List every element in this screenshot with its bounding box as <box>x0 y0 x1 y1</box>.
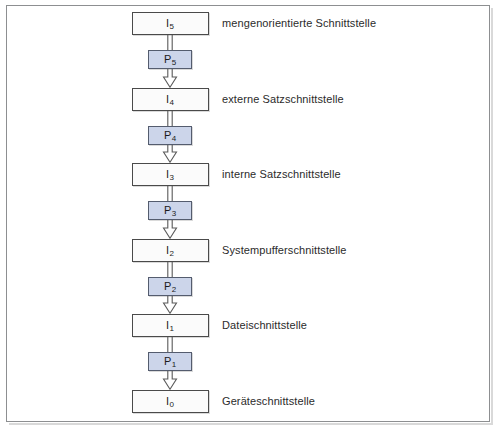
interface-caption-i2: Systempufferschnittstelle <box>222 244 347 256</box>
hollow-down-arrow-icon <box>161 220 179 239</box>
node-label-subscript: 0 <box>170 400 175 409</box>
interface-box-i3: I3 <box>132 163 209 186</box>
connector-p5-to-i4 <box>161 69 179 88</box>
node-label: P3 <box>164 205 176 216</box>
diagram-frame: I5mengenorientierte SchnittstelleI4exter… <box>6 5 490 422</box>
node-label-subscript: 3 <box>172 209 177 218</box>
double-line-icon <box>161 262 179 277</box>
connector-i2-to-p2 <box>161 262 179 277</box>
node-label-subscript: 1 <box>172 360 177 369</box>
layer-flow-diagram: I5mengenorientierte SchnittstelleI4exter… <box>7 6 491 423</box>
connector-i3-to-p3 <box>161 186 179 201</box>
node-label: I4 <box>166 94 174 105</box>
interface-caption-i1: Dateischnittstelle <box>222 319 307 331</box>
connector-p2-to-i1 <box>161 296 179 314</box>
double-line-icon <box>161 186 179 201</box>
node-label: I1 <box>166 320 174 331</box>
hollow-down-arrow-icon <box>161 371 179 390</box>
node-label-subscript: 1 <box>170 324 175 333</box>
node-label: I5 <box>166 18 174 29</box>
interface-caption-i3: interne Satzschnittstelle <box>222 168 341 180</box>
interface-caption-i4: externe Satzschnittstelle <box>222 93 344 105</box>
node-label: I0 <box>166 396 174 407</box>
node-label-subscript: 3 <box>170 173 175 182</box>
node-label-subscript: 4 <box>172 134 177 143</box>
node-label: P2 <box>164 281 176 292</box>
process-box-p4: P4 <box>148 126 192 145</box>
interface-box-i0: I0 <box>132 390 209 413</box>
interface-box-i5: I5 <box>132 12 209 35</box>
process-box-p1: P1 <box>148 352 192 371</box>
connector-p3-to-i2 <box>161 220 179 239</box>
hollow-down-arrow-icon <box>161 296 179 314</box>
interface-caption-i5: mengenorientierte Schnittstelle <box>222 17 376 29</box>
interface-caption-i0: Geräteschnittstelle <box>222 395 315 407</box>
process-box-p2: P2 <box>148 277 192 296</box>
connector-i5-to-p5 <box>161 35 179 50</box>
interface-box-i1: I1 <box>132 314 209 337</box>
node-label: P1 <box>164 356 176 367</box>
frame-shadow-right <box>491 8 493 424</box>
double-line-icon <box>161 337 179 352</box>
connector-p4-to-i3 <box>161 145 179 163</box>
node-label-subscript: 2 <box>170 249 175 258</box>
process-box-p5: P5 <box>148 50 192 69</box>
double-line-icon <box>161 111 179 126</box>
frame-shadow-bottom <box>9 423 493 425</box>
node-label-subscript: 4 <box>170 98 175 107</box>
interface-box-i4: I4 <box>132 88 209 111</box>
double-line-icon <box>161 35 179 50</box>
node-label: I2 <box>166 245 174 256</box>
hollow-down-arrow-icon <box>161 69 179 88</box>
node-label-subscript: 5 <box>170 22 175 31</box>
node-label: P5 <box>164 54 176 65</box>
node-label-subscript: 5 <box>172 58 177 67</box>
connector-p1-to-i0 <box>161 371 179 390</box>
process-box-p3: P3 <box>148 201 192 220</box>
node-label: I3 <box>166 169 174 180</box>
connector-i1-to-p1 <box>161 337 179 352</box>
node-label: P4 <box>164 130 176 141</box>
connector-i4-to-p4 <box>161 111 179 126</box>
hollow-down-arrow-icon <box>161 145 179 163</box>
interface-box-i2: I2 <box>132 239 209 262</box>
node-label-subscript: 2 <box>172 285 177 294</box>
